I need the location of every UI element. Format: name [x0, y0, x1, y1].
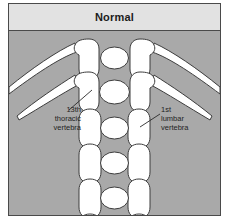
vertebra-1-body [101, 47, 129, 69]
figure-title-bar: Normal [9, 4, 220, 31]
label-thoracic-line-1: 13th [19, 105, 81, 114]
vertebra-4-body [101, 152, 129, 174]
label-lumbar-line-1: 1st [161, 105, 220, 114]
label-thoracic-line-3: vertebra [19, 123, 81, 132]
vertebra-4-process-left [79, 144, 101, 183]
label-lumbar-line-3: vertebra [161, 123, 220, 132]
label-lumbar-vertebra: 1st lumbar vertebra [161, 105, 220, 133]
label-lumbar-line-2: lumbar [161, 114, 220, 123]
vertebra-4-process-right [128, 144, 150, 183]
label-thoracic-line-2: thoracic [19, 114, 81, 123]
vertebra-3-process-left [79, 109, 101, 148]
vertebra-5-process-left [79, 179, 101, 215]
vertebra-2-process-right [130, 72, 155, 112]
figure-title: Normal [95, 11, 134, 23]
label-thoracic-vertebra: 13th thoracic vertebra [19, 105, 81, 133]
vertebra-2-body [100, 80, 130, 104]
vertebra-3-body [101, 117, 129, 139]
anatomy-figure: Normal [8, 3, 221, 216]
vertebra-5-process-right [128, 179, 150, 215]
figure-canvas: 13th thoracic vertebra 1st lumbar verteb… [9, 31, 220, 215]
vertebra-3-process-right [128, 109, 150, 148]
vertebra-5-body [101, 187, 129, 209]
